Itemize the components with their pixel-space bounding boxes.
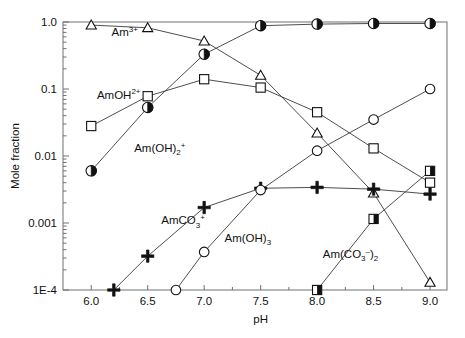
marker-square-open [369,144,378,153]
marker-square-half-fill [317,285,322,294]
chart-figure: 6.06.57.07.58.08.59.0 1.00.10.010.0011E-… [0,0,465,338]
marker-circle-open [425,84,435,94]
y-tick-label: 0.1 [41,83,57,95]
marker-square-open [313,108,322,117]
marker-square-half-fill [430,166,435,175]
marker-square-open [200,75,209,84]
series-label-sub2: 2 [374,254,379,263]
marker-circle-open [369,115,379,125]
x-tick-label: 8.0 [309,295,325,307]
marker-circle-open [312,146,322,156]
x-axis-title: pH [253,313,268,325]
series-label-base: Am(OH) [225,232,267,244]
marker-square-open [425,178,434,187]
x-tick-label: 6.0 [83,295,99,307]
marker-circle-open [256,185,266,195]
series-label-base: Am [112,26,129,38]
series-label-sup: 2+ [131,87,140,96]
x-tick-label: 8.5 [366,295,382,307]
marker-square-half-fill [374,214,379,223]
series-label-sup: + [200,213,205,222]
y-tick-label: 1.0 [41,16,57,28]
series-label-sup: 3+ [129,25,138,34]
x-tick-label: 7.0 [196,295,212,307]
marker-circle-open [171,285,181,295]
marker-square-open [143,92,152,101]
marker-square-open [87,121,96,130]
marker-circle-open [199,247,209,257]
y-tick-label: 0.001 [28,217,57,229]
speciation-log-plot: 6.06.57.07.58.08.59.0 1.00.10.010.0011E-… [0,0,465,338]
series-label-base: AmCO [161,214,196,226]
series-label-sub: 3 [267,238,272,247]
x-tick-label: 7.5 [253,295,269,307]
series-label-base: Am(CO [323,248,361,260]
series-label-base: AmOH [97,89,132,101]
x-tick-label: 9.0 [422,295,438,307]
series-label-sup: + [181,141,186,150]
x-tick-label: 6.5 [140,295,156,307]
y-tick-label: 0.01 [35,150,57,162]
marker-square-open [256,83,265,92]
y-tick-label: 1E-4 [33,284,58,296]
y-axis-title: Mole fraction [9,123,21,189]
series-label-base: Am(OH) [134,142,176,154]
